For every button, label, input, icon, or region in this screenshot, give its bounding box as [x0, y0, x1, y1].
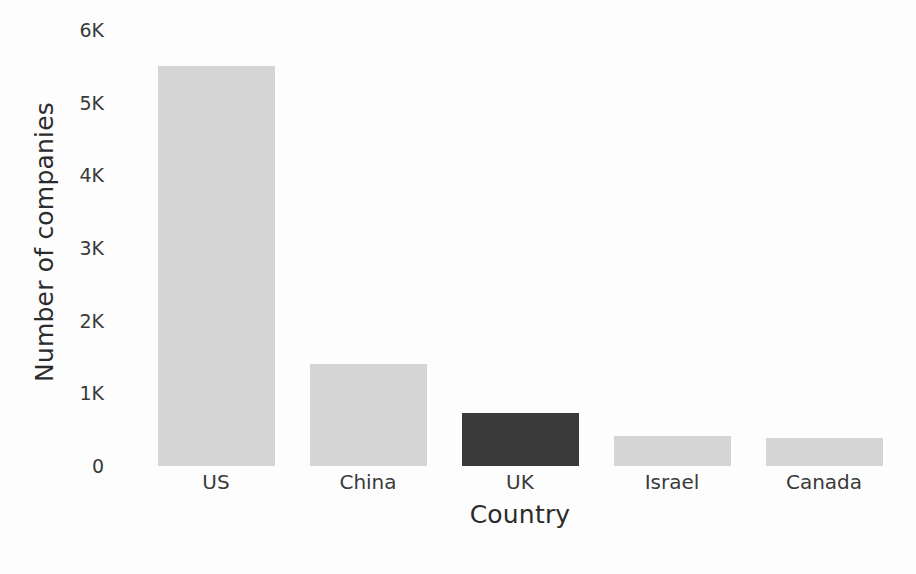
y-tick-label: 6K [58, 19, 104, 41]
y-tick-label: 5K [58, 92, 104, 114]
y-tick-label: 3K [58, 237, 104, 259]
x-tick-label-israel: Israel [596, 470, 748, 494]
x-tick-label-canada: Canada [748, 470, 900, 494]
x-axis-label: Country [140, 500, 900, 529]
x-axis-tick-labels: USChinaUKIsraelCanada [140, 470, 900, 502]
bar-china [310, 364, 427, 466]
y-axis-tick-labels: 01K2K3K4K5K6K [58, 0, 104, 574]
y-tick-label: 2K [58, 310, 104, 332]
x-tick-label-china: China [292, 470, 444, 494]
y-tick-label: 4K [58, 164, 104, 186]
bar-israel [614, 436, 731, 466]
y-tick-label: 1K [58, 382, 104, 404]
bar-uk [462, 413, 579, 466]
bar-us [158, 66, 275, 466]
bar-canada [766, 438, 883, 466]
x-tick-label-us: US [140, 470, 292, 494]
plot-area [140, 30, 900, 466]
x-tick-label-uk: UK [444, 470, 596, 494]
bar-chart-figure: Number of companies 01K2K3K4K5K6K USChin… [0, 0, 916, 574]
y-tick-label: 0 [58, 455, 104, 477]
